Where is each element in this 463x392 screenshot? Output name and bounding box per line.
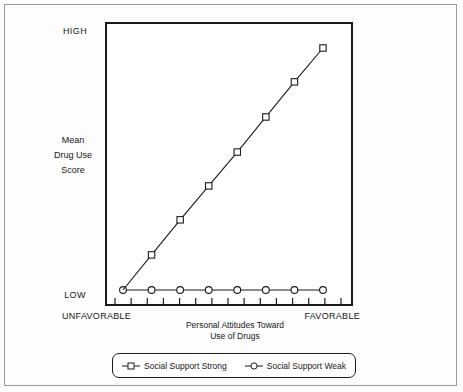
y-axis-title: Mean Drug Use Score — [44, 133, 102, 178]
legend-square-marker-icon — [122, 361, 140, 371]
legend-label-social-support-strong: Social Support Strong — [144, 361, 227, 371]
x-axis-title-line-1: Personal Attitudes Toward — [145, 320, 325, 331]
legend-circle-marker-icon — [245, 361, 263, 371]
data-point-square — [177, 217, 183, 223]
data-point-square — [148, 252, 154, 258]
data-point-square — [320, 45, 326, 51]
y-axis-label-high: HIGH — [50, 26, 100, 36]
data-point-circle — [291, 287, 298, 294]
data-point-circle — [320, 287, 327, 294]
legend-item-social-support-strong[interactable]: Social Support Strong — [122, 361, 227, 371]
x-axis-tick-marks — [115, 298, 341, 304]
y-axis-title-line-3: Score — [44, 163, 102, 178]
data-point-circle — [262, 287, 269, 294]
data-point-square — [263, 114, 269, 120]
plot-series-layer — [105, 22, 353, 306]
chart-legend: Social Support Strong Social Support Wea… — [112, 353, 356, 378]
data-point-circle — [148, 287, 155, 294]
data-point-square — [206, 183, 212, 189]
legend-label-social-support-weak: Social Support Weak — [267, 361, 346, 371]
y-axis-label-low: LOW — [50, 290, 100, 300]
data-point-square — [234, 149, 240, 155]
data-point-circle — [234, 287, 241, 294]
legend-item-social-support-weak[interactable]: Social Support Weak — [245, 361, 346, 371]
y-axis-title-line-2: Drug Use — [44, 148, 102, 163]
y-axis-title-line-1: Mean — [44, 133, 102, 148]
data-point-circle — [205, 287, 212, 294]
data-point-square — [291, 79, 297, 85]
data-point-circle — [177, 287, 184, 294]
x-axis-label-unfavorable: UNFAVORABLE — [62, 311, 131, 321]
x-axis-title-line-2: Use of Drugs — [145, 331, 325, 342]
x-axis-title: Personal Attitudes Toward Use of Drugs — [145, 320, 325, 342]
figure-canvas: HIGH Mean Drug Use Score LOW UNFAVORABLE… — [0, 0, 463, 392]
series-social-support-weak — [120, 287, 327, 294]
series-social-support-strong — [123, 45, 326, 290]
